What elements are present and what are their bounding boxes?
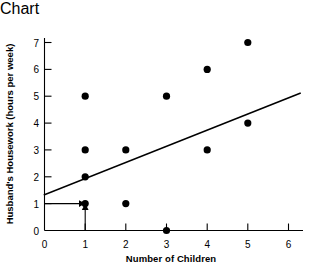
data-point: [204, 66, 211, 73]
data-point: [82, 173, 89, 180]
y-axis-title: Husband's Housework (hours per week): [4, 44, 15, 225]
data-point: [163, 227, 170, 234]
x-tick-label-5: 5: [245, 239, 251, 250]
data-point: [204, 146, 211, 153]
y-tick-label-7: 7: [33, 38, 39, 49]
x-axis-ticks: [85, 224, 288, 231]
y-tick-label-1: 1: [33, 199, 39, 210]
y-tick-label-4: 4: [33, 118, 39, 129]
x-tick-label-2: 2: [123, 239, 129, 250]
data-point: [122, 146, 129, 153]
x-tick-label-6: 6: [286, 239, 292, 250]
y-tick-label-0: 0: [33, 226, 39, 237]
x-tick-label-0: 0: [42, 239, 48, 250]
y-tick-label-3: 3: [33, 145, 39, 156]
plot-area: 7 6 5 4 3 2 1 0 0 1 2 3 4 5 6: [0, 18, 313, 266]
x-tick-label-4: 4: [204, 239, 210, 250]
data-point: [82, 146, 89, 153]
y-tick-label-5: 5: [33, 91, 39, 102]
data-point: [163, 93, 170, 100]
data-point: [244, 120, 251, 127]
x-tick-labels: 0 1 2 3 4 5 6: [42, 239, 292, 250]
y-tick-label-2: 2: [33, 172, 39, 183]
data-point: [122, 200, 129, 207]
y-tick-label-6: 6: [33, 64, 39, 75]
data-point: [82, 200, 89, 207]
data-points: [82, 39, 252, 234]
x-tick-label-3: 3: [164, 239, 170, 250]
scatter-chart: 7 6 5 4 3 2 1 0 0 1 2 3 4 5 6: [0, 18, 313, 266]
y-tick-labels: 7 6 5 4 3 2 1 0: [33, 38, 39, 237]
y-axis-ticks: [45, 43, 52, 204]
x-tick-label-1: 1: [82, 239, 88, 250]
data-point: [82, 93, 89, 100]
data-point: [244, 39, 251, 46]
x-axis-title: Number of Children: [126, 253, 217, 264]
